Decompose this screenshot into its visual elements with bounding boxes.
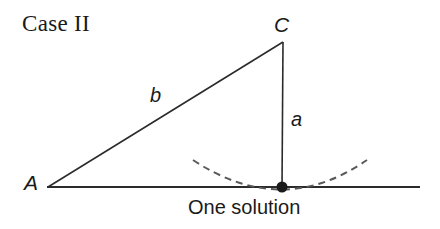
triangle-diagram-svg: Case II A C b a One solution xyxy=(0,0,440,229)
solution-point-dot xyxy=(277,182,288,193)
side-label-a: a xyxy=(291,108,302,130)
side-b-segment xyxy=(48,42,283,187)
case-title: Case II xyxy=(22,11,90,36)
geometry-figure: Case II A C b a One solution xyxy=(0,0,440,229)
side-label-b: b xyxy=(150,84,161,106)
solution-caption: One solution xyxy=(188,196,300,218)
vertex-label-a: A xyxy=(22,171,38,194)
side-a-segment xyxy=(282,42,283,187)
vertex-label-c: C xyxy=(274,13,290,36)
